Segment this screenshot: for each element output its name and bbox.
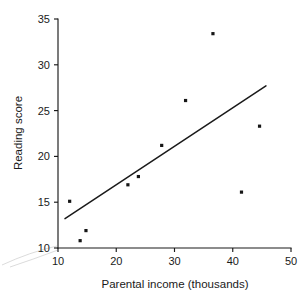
data-point	[258, 125, 261, 128]
axis-lines	[58, 19, 291, 248]
data-point	[68, 200, 71, 203]
y-tick-label: 10	[38, 242, 50, 254]
data-point	[137, 175, 140, 178]
scatter-plot-figure: 101520253035 1020304050 Parental income …	[0, 0, 308, 300]
y-tick-label: 20	[38, 150, 50, 162]
y-axis-ticks	[54, 19, 58, 248]
x-tick-label: 40	[227, 255, 239, 267]
x-axis-ticks	[58, 248, 291, 252]
x-tick-label: 10	[52, 255, 64, 267]
data-point	[160, 144, 163, 147]
data-point	[184, 99, 187, 102]
x-tick-label: 20	[110, 255, 122, 267]
x-tick-label: 50	[285, 255, 297, 267]
y-axis-tick-labels: 101520253035	[38, 13, 50, 254]
x-axis-title: Parental income (thousands)	[101, 278, 248, 290]
x-axis-tick-labels: 1020304050	[52, 255, 297, 267]
y-tick-label: 15	[38, 196, 50, 208]
y-tick-label: 25	[38, 105, 50, 117]
data-point	[240, 191, 243, 194]
y-tick-label: 30	[38, 59, 50, 71]
data-point	[79, 239, 82, 242]
x-tick-label: 30	[168, 255, 180, 267]
y-tick-label: 35	[38, 13, 50, 25]
y-axis-title: Reading score	[12, 96, 24, 170]
data-point	[211, 32, 214, 35]
regression-line	[65, 86, 266, 219]
data-points	[68, 32, 261, 242]
data-point	[126, 183, 129, 186]
plot-canvas: 101520253035 1020304050 Parental income …	[0, 0, 308, 300]
data-point	[84, 229, 87, 232]
